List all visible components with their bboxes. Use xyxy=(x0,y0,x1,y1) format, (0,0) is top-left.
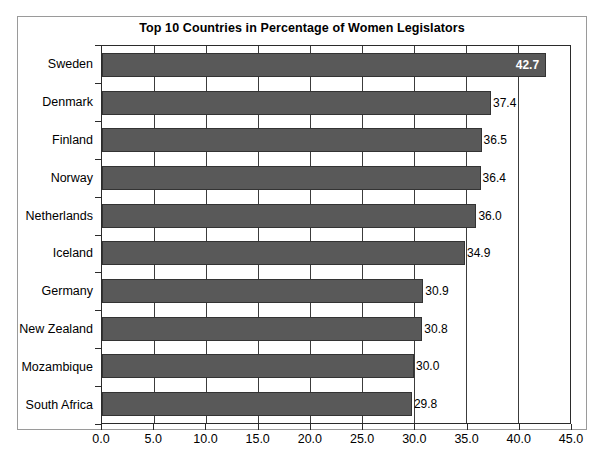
category-label: Sweden xyxy=(18,45,101,83)
bar-value-label: 36.4 xyxy=(483,172,506,184)
category-label: South Africa xyxy=(18,386,101,424)
category-label: New Zealand xyxy=(18,310,101,348)
category-label: Finland xyxy=(18,121,101,159)
value-tick-label: 5.0 xyxy=(145,432,162,446)
bar-row: 29.8 xyxy=(102,385,570,423)
bar-value-label: 29.8 xyxy=(414,398,437,410)
bar[interactable]: 42.7 xyxy=(102,53,546,77)
value-tick xyxy=(414,424,415,430)
bar-row: 37.4 xyxy=(102,84,570,122)
bar-value-label: 37.4 xyxy=(493,97,516,109)
value-tick-label: 25.0 xyxy=(350,432,374,446)
value-tick xyxy=(571,424,572,430)
value-tick-label: 40.0 xyxy=(507,432,531,446)
bar-value-label: 34.9 xyxy=(467,247,490,259)
bar[interactable]: 30.8 xyxy=(102,317,422,341)
value-tick-label: 45.0 xyxy=(559,432,583,446)
bar-series: 42.737.436.536.436.034.930.930.830.029.8 xyxy=(102,46,570,423)
category-label: Netherlands xyxy=(18,197,101,235)
category-label: Norway xyxy=(18,159,101,197)
value-tick-label: 15.0 xyxy=(245,432,269,446)
category-label: Denmark xyxy=(18,83,101,121)
value-tick xyxy=(205,424,206,430)
bar-value-label: 30.9 xyxy=(425,285,448,297)
bar-row: 34.9 xyxy=(102,235,570,273)
plot-area: 42.737.436.536.436.034.930.930.830.029.8 xyxy=(101,45,571,424)
value-tick xyxy=(467,424,468,430)
bar[interactable]: 30.0 xyxy=(102,354,414,378)
bar-row: 36.0 xyxy=(102,197,570,235)
value-tick-label: 10.0 xyxy=(193,432,217,446)
bar-value-label: 42.7 xyxy=(516,59,539,71)
value-tick-label: 0.0 xyxy=(92,432,109,446)
category-label: Germany xyxy=(18,272,101,310)
bar-value-label: 36.5 xyxy=(484,134,507,146)
bar[interactable]: 36.5 xyxy=(102,128,482,152)
bar-value-label: 30.8 xyxy=(424,323,447,335)
value-tick xyxy=(362,424,363,430)
bar[interactable]: 37.4 xyxy=(102,91,491,115)
bar[interactable]: 30.9 xyxy=(102,279,423,303)
bar-row: 36.4 xyxy=(102,159,570,197)
value-tick xyxy=(310,424,311,430)
bar[interactable]: 36.4 xyxy=(102,166,481,190)
bar-value-label: 30.0 xyxy=(416,360,439,372)
bar[interactable]: 36.0 xyxy=(102,204,476,228)
chart-title: Top 10 Countries in Percentage of Women … xyxy=(18,21,586,35)
value-tick xyxy=(258,424,259,430)
value-tick-label: 35.0 xyxy=(454,432,478,446)
bar[interactable]: 34.9 xyxy=(102,241,465,265)
bar-row: 42.7 xyxy=(102,46,570,84)
category-label: Iceland xyxy=(18,235,101,273)
bar[interactable]: 29.8 xyxy=(102,392,412,416)
bar-value-label: 36.0 xyxy=(478,210,501,222)
value-tick xyxy=(519,424,520,430)
value-tick xyxy=(101,424,102,430)
value-tick-label: 20.0 xyxy=(298,432,322,446)
value-tick-label: 30.0 xyxy=(402,432,426,446)
bar-row: 36.5 xyxy=(102,121,570,159)
category-label: Mozambique xyxy=(18,348,101,386)
value-axis: 0.05.010.015.020.025.030.035.040.045.0 xyxy=(101,424,571,448)
chart-frame: Top 10 Countries in Percentage of Women … xyxy=(17,16,587,430)
bar-row: 30.8 xyxy=(102,310,570,348)
value-tick xyxy=(153,424,154,430)
category-axis-labels: SwedenDenmarkFinlandNorwayNetherlandsIce… xyxy=(18,45,101,424)
bar-row: 30.9 xyxy=(102,272,570,310)
bar-row: 30.0 xyxy=(102,348,570,386)
